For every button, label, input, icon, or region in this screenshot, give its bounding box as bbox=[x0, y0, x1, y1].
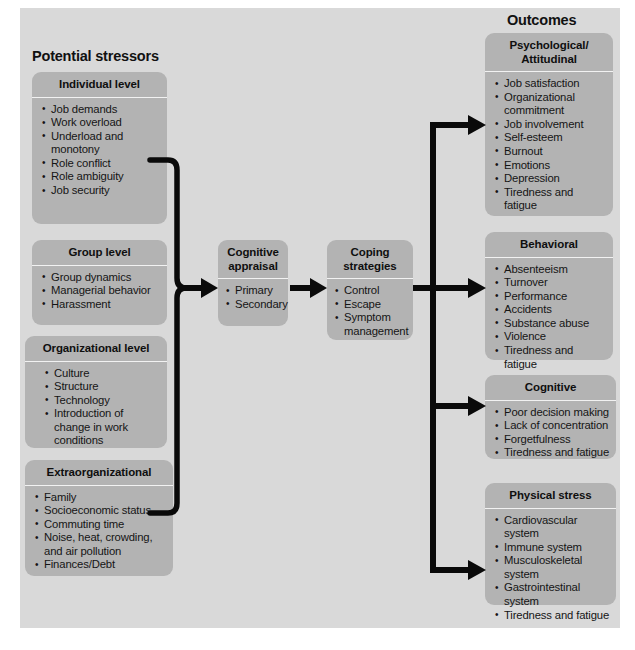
box-cognitive[interactable]: Cognitive Poor decision making Lack of c… bbox=[485, 375, 616, 459]
box-cognitive-appraisal[interactable]: Cognitive appraisal Primary Secondary bbox=[218, 240, 288, 326]
list-item: Control bbox=[335, 284, 407, 298]
list-item: Work overload bbox=[42, 116, 161, 130]
list-item: Technology bbox=[45, 394, 161, 408]
list-item: Tiredness and fatigue bbox=[495, 344, 607, 371]
list-item: Group dynamics bbox=[42, 271, 161, 285]
list-item: Culture bbox=[45, 367, 161, 381]
box-list-psychological-attitudinal: Job satisfaction Organizational commitme… bbox=[485, 72, 613, 219]
box-organizational-level[interactable]: Organizational level Culture Structure T… bbox=[25, 336, 167, 448]
list-item: Violence bbox=[495, 330, 607, 344]
list-item: Tiredness and fatigue bbox=[495, 446, 610, 460]
list-item: Burnout bbox=[495, 145, 607, 159]
list-item: Job satisfaction bbox=[495, 77, 607, 91]
list-item: Tiredness and fatigue bbox=[495, 186, 607, 213]
list-item: Socioeconomic status bbox=[35, 504, 167, 518]
list-item: Emotions bbox=[495, 159, 607, 173]
list-item: Introduction of change in work condition… bbox=[45, 407, 161, 448]
list-item: Role ambiguity bbox=[42, 170, 161, 184]
box-group-level[interactable]: Group level Group dynamics Managerial be… bbox=[32, 240, 167, 325]
list-item: Accidents bbox=[495, 303, 607, 317]
list-item: Harassment bbox=[42, 298, 161, 312]
box-psychological-attitudinal[interactable]: Psychological/ Attitudinal Job satisfact… bbox=[485, 33, 613, 216]
list-item: Lack of concentration bbox=[495, 419, 610, 433]
box-physical-stress[interactable]: Physical stress Cardiovascular system Im… bbox=[485, 483, 616, 605]
box-coping-strategies[interactable]: Coping strategies Control Escape Symptom… bbox=[327, 240, 413, 340]
box-header-physical-stress: Physical stress bbox=[485, 483, 616, 509]
list-item: Poor decision making bbox=[495, 406, 610, 420]
box-list-extraorganizational: Family Socioeconomic status Commuting ti… bbox=[25, 486, 173, 579]
list-item: Structure bbox=[45, 380, 161, 394]
box-header-behavioral: Behavioral bbox=[485, 232, 613, 258]
box-header-coping-strategies: Coping strategies bbox=[327, 240, 413, 279]
box-list-organizational-level: Culture Structure Technology Introductio… bbox=[25, 362, 167, 455]
page-title-potential-stressors: Potential stressors bbox=[32, 48, 159, 64]
list-item: Gastrointestinal system bbox=[495, 581, 610, 608]
box-list-coping-strategies: Control Escape Symptom management bbox=[327, 279, 413, 344]
list-item: Escape bbox=[335, 298, 407, 312]
list-item: Underload and monotony bbox=[42, 130, 161, 157]
list-item: Family bbox=[35, 491, 167, 505]
box-list-cognitive-appraisal: Primary Secondary bbox=[218, 279, 288, 317]
list-item: Forgetfulness bbox=[495, 433, 610, 447]
box-individual-level[interactable]: Individual level Job demands Work overlo… bbox=[32, 72, 167, 224]
list-item: Immune system bbox=[495, 541, 610, 555]
list-item: Role conflict bbox=[42, 157, 161, 171]
stress-model-diagram: Potential stressors Outcomes Individual … bbox=[0, 0, 635, 650]
box-list-cognitive: Poor decision making Lack of concentrati… bbox=[485, 401, 616, 466]
page-title-outcomes: Outcomes bbox=[507, 12, 576, 28]
list-item: Commuting time bbox=[35, 518, 167, 532]
box-list-physical-stress: Cardiovascular system Immune system Musc… bbox=[485, 509, 616, 629]
list-item: Managerial behavior bbox=[42, 284, 161, 298]
list-item: Musculoskeletal system bbox=[495, 554, 610, 581]
box-extraorganizational[interactable]: Extraorganizational Family Socioeconomic… bbox=[25, 460, 173, 576]
list-item: Self-esteem bbox=[495, 131, 607, 145]
list-item: Symptom management bbox=[335, 311, 407, 338]
box-header-cognitive-appraisal: Cognitive appraisal bbox=[218, 240, 288, 279]
box-list-individual-level: Job demands Work overload Underload and … bbox=[32, 98, 167, 204]
list-item: Job security bbox=[42, 184, 161, 198]
list-item: Job involvement bbox=[495, 118, 607, 132]
box-header-cognitive: Cognitive bbox=[485, 375, 616, 401]
list-item: Noise, heat, crowding, and air pollution bbox=[35, 531, 167, 558]
list-item: Organizational commitment bbox=[495, 91, 607, 118]
list-item: Substance abuse bbox=[495, 317, 607, 331]
list-item: Depression bbox=[495, 172, 607, 186]
list-item: Turnover bbox=[495, 276, 607, 290]
box-behavioral[interactable]: Behavioral Absenteeism Turnover Performa… bbox=[485, 232, 613, 360]
box-list-group-level: Group dynamics Managerial behavior Haras… bbox=[32, 266, 167, 318]
box-header-individual-level: Individual level bbox=[32, 72, 167, 98]
box-header-psychological-attitudinal: Psychological/ Attitudinal bbox=[485, 33, 613, 72]
box-header-group-level: Group level bbox=[32, 240, 167, 266]
list-item: Finances/Debt bbox=[35, 558, 167, 572]
list-item: Performance bbox=[495, 290, 607, 304]
list-item: Cardiovascular system bbox=[495, 514, 610, 541]
list-item: Tiredness and fatigue bbox=[495, 609, 610, 623]
box-header-organizational-level: Organizational level bbox=[25, 336, 167, 362]
list-item: Primary bbox=[226, 284, 282, 298]
box-list-behavioral: Absenteeism Turnover Performance Acciden… bbox=[485, 258, 613, 378]
list-item: Absenteeism bbox=[495, 263, 607, 277]
list-item: Job demands bbox=[42, 103, 161, 117]
list-item: Secondary bbox=[226, 298, 282, 312]
box-header-extraorganizational: Extraorganizational bbox=[25, 460, 173, 486]
